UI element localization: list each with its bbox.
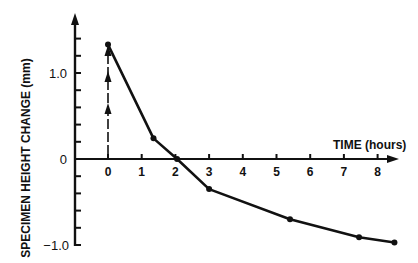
x-tick-label: 6 (307, 165, 314, 179)
y-tick-label-0: 0 (60, 152, 67, 167)
arrowhead-icon (105, 103, 112, 114)
x-tick-label: 4 (239, 165, 246, 179)
x-axis-title: TIME (hours) (333, 138, 406, 152)
x-axis: 012345678 TIME (hours) (75, 138, 406, 179)
data-point (287, 216, 293, 222)
load-application-arrows (105, 45, 112, 155)
x-tick-label: 3 (206, 165, 213, 179)
y-axis: 1.0 0 −1.0 SPECIMEN HEIGHT CHANGE (mm) (19, 13, 81, 258)
x-axis-arrow-icon (387, 155, 399, 163)
x-tick-label: 0 (105, 165, 112, 179)
x-tick-label: 7 (341, 165, 348, 179)
chart: 1.0 0 −1.0 SPECIMEN HEIGHT CHANGE (mm) 0… (0, 0, 418, 263)
data-point (105, 42, 111, 48)
x-tick-label: 5 (273, 165, 280, 179)
y-axis-arrow-icon (71, 13, 79, 25)
data-point (391, 239, 397, 245)
data-point (174, 156, 180, 162)
data-point (206, 186, 212, 192)
data-point (356, 234, 362, 240)
x-tick-label: 8 (374, 165, 381, 179)
y-tick-label-1: 1.0 (49, 66, 67, 81)
data-point (150, 135, 156, 141)
arrowhead-icon (105, 71, 112, 82)
y-tick-label-minus-1: −1.0 (43, 238, 69, 253)
y-axis-title: SPECIMEN HEIGHT CHANGE (mm) (19, 58, 33, 257)
x-tick-label: 2 (172, 165, 179, 179)
x-tick-label: 1 (138, 165, 145, 179)
